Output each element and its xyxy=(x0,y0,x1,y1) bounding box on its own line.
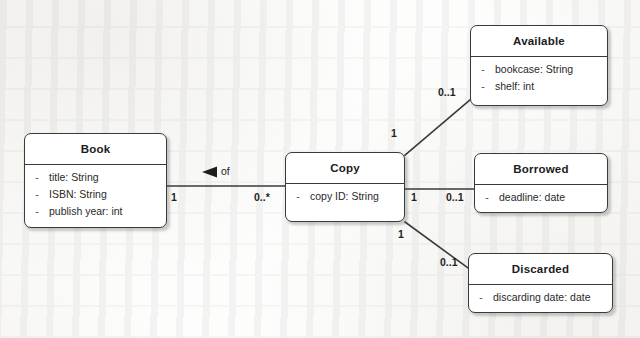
attribute-visibility: - xyxy=(471,61,495,78)
class-attributes-discarded: - discarding date: date xyxy=(469,285,612,310)
multiplicity-copy-side-of-book: 0..* xyxy=(254,191,270,203)
multiplicity-book-side: 1 xyxy=(171,191,177,203)
class-attributes-available: - bookcase: String - shelf: int xyxy=(471,57,607,99)
attribute-label: bookcase: String xyxy=(495,61,607,78)
attribute-label: shelf: int xyxy=(495,78,607,95)
attribute-visibility: - xyxy=(475,189,499,206)
class-box-available[interactable]: Available - bookcase: String - shelf: in… xyxy=(470,25,608,106)
class-name-borrowed: Borrowed xyxy=(475,154,607,185)
attribute-label: copy ID: String xyxy=(310,188,404,205)
attribute-label: discarding date: date xyxy=(493,289,612,306)
multiplicity-copy-side-borrowed: 1 xyxy=(411,191,417,203)
attribute-row: - bookcase: String xyxy=(471,61,607,78)
multiplicity-borrowed-side: 0..1 xyxy=(446,191,464,203)
attribute-row: - deadline: date xyxy=(475,189,607,206)
attribute-row: - copy ID: String xyxy=(286,188,404,205)
attribute-row: - shelf: int xyxy=(471,78,607,95)
attribute-row: - title: String xyxy=(25,169,166,186)
attribute-visibility: - xyxy=(25,169,49,186)
class-box-book[interactable]: Book - title: String - ISBN: String - pu… xyxy=(24,133,167,228)
attribute-visibility: - xyxy=(471,78,495,95)
attribute-visibility: - xyxy=(286,188,310,205)
class-attributes-copy: - copy ID: String xyxy=(286,184,404,209)
attribute-label: deadline: date xyxy=(499,189,607,206)
class-name-discarded: Discarded xyxy=(469,254,612,285)
association-direction-triangle-icon xyxy=(202,167,217,178)
attribute-visibility: - xyxy=(25,203,49,220)
attribute-label: ISBN: String xyxy=(49,186,166,203)
line-copy-available xyxy=(405,100,470,155)
class-box-borrowed[interactable]: Borrowed - deadline: date xyxy=(474,153,608,213)
attribute-label: publish year: int xyxy=(49,203,166,220)
class-attributes-book: - title: String - ISBN: String - publish… xyxy=(25,165,166,224)
association-label-of: of xyxy=(221,165,230,177)
class-name-copy: Copy xyxy=(286,153,404,184)
attribute-visibility: - xyxy=(25,186,49,203)
line-copy-discarded xyxy=(405,222,468,268)
uml-diagram-canvas: Book - title: String - ISBN: String - pu… xyxy=(0,0,640,338)
multiplicity-copy-side-discarded: 1 xyxy=(398,228,404,240)
attribute-row: - publish year: int xyxy=(25,203,166,220)
multiplicity-discarded-side: 0..1 xyxy=(440,256,458,268)
attribute-row: - ISBN: String xyxy=(25,186,166,203)
class-name-available: Available xyxy=(471,26,607,57)
attribute-label: title: String xyxy=(49,169,166,186)
class-name-book: Book xyxy=(25,134,166,165)
class-box-copy[interactable]: Copy - copy ID: String xyxy=(285,152,405,222)
multiplicity-available-side: 0..1 xyxy=(438,86,456,98)
class-box-discarded[interactable]: Discarded - discarding date: date xyxy=(468,253,613,313)
class-attributes-borrowed: - deadline: date xyxy=(475,185,607,210)
multiplicity-copy-side-available: 1 xyxy=(391,127,397,139)
attribute-row: - discarding date: date xyxy=(469,289,612,306)
attribute-visibility: - xyxy=(469,289,493,306)
